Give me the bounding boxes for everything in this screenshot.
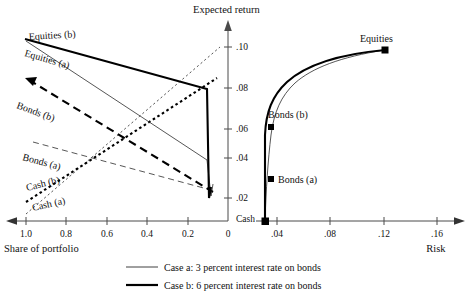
left-x-ticklabel-1-0: 1.0 — [20, 229, 32, 239]
marker-equities — [382, 47, 389, 54]
right-x-ticklabel-04: .04 — [271, 229, 283, 239]
label-cash-a: Cash (a) — [31, 195, 66, 214]
label-cash-b: Cash (b) — [25, 174, 61, 194]
left-x-ticklabel-0: 0 — [226, 229, 231, 239]
right-panel-frontier: Bonds (b) Bonds (a) Equities — [262, 33, 393, 225]
frontier-case-b — [265, 50, 385, 221]
left-x-axis-arrow-icon — [6, 217, 17, 225]
label-bonds-b: Bonds (b) — [15, 100, 56, 125]
y-ticklabel-08: .08 — [236, 83, 248, 93]
y-ticklabel-02: .02 — [236, 193, 248, 203]
left-x-ticklabel-0-6: 0.6 — [101, 229, 113, 239]
frontier-case-a — [265, 50, 385, 221]
label-bonds-a: Bonds (a) — [21, 151, 62, 173]
left-x-ticklabel-0-2: 0.2 — [182, 229, 194, 239]
right-x-ticklabel-12: .12 — [378, 229, 390, 239]
marker-bonds-b — [268, 124, 274, 130]
label-frontier-equities: Equities — [360, 33, 393, 44]
legend-item-case-a: Case a: 3 percent interest rate on bonds — [126, 262, 321, 273]
y-ticklabel-04: .04 — [236, 153, 248, 163]
label-equities-a: Equities (a) — [23, 47, 71, 71]
left-x-ticklabel-0-8: 0.8 — [60, 229, 72, 239]
y-axis-title: Expected return — [193, 4, 261, 15]
y-axis: .10 .08 .06 .04 .02 Expected return Cash — [193, 4, 261, 224]
right-x-axis-title: Risk — [426, 243, 446, 254]
marker-cash — [262, 218, 270, 226]
label-frontier-bonds-b: Bonds (b) — [268, 109, 308, 121]
right-x-ticklabel-08: .08 — [324, 229, 336, 239]
y-ticklabel-10: .10 — [236, 42, 248, 52]
chart-svg: .10 .08 .06 .04 .02 Expected return Cash… — [0, 0, 471, 299]
right-x-ticklabel-16: .16 — [431, 229, 443, 239]
legend: Case a: 3 percent interest rate on bonds… — [126, 262, 322, 291]
label-equities-b: Equities (b) — [28, 28, 76, 43]
left-x-axis: 1.0 0.8 0.6 0.4 0.2 0 Share of portfolio — [4, 217, 231, 254]
left-x-axis-title: Share of portfolio — [4, 243, 79, 254]
y-ticklabel-06: .06 — [236, 124, 248, 134]
series-cash-a — [26, 47, 220, 214]
right-x-axis-arrow-icon — [454, 217, 465, 225]
left-x-ticklabel-0-4: 0.4 — [141, 229, 153, 239]
right-x-axis: .04 .08 .12 .16 Risk — [256, 217, 465, 254]
origin-cash-label: Cash — [236, 214, 255, 224]
marker-bonds-a — [268, 176, 274, 182]
left-panel-labels: Equities (b) Equities (a) Bonds (b) Bond… — [15, 28, 76, 214]
legend-item-case-b: Case b: 6 percent interest rate on bonds — [126, 280, 322, 291]
figure-portfolio-risk-return: .10 .08 .06 .04 .02 Expected return Cash… — [0, 0, 471, 299]
label-frontier-bonds-a: Bonds (a) — [278, 174, 317, 186]
legend-label-case-b: Case b: 6 percent interest rate on bonds — [164, 280, 322, 291]
y-axis-arrow-icon — [224, 20, 232, 31]
legend-label-case-a: Case a: 3 percent interest rate on bonds — [164, 262, 321, 273]
